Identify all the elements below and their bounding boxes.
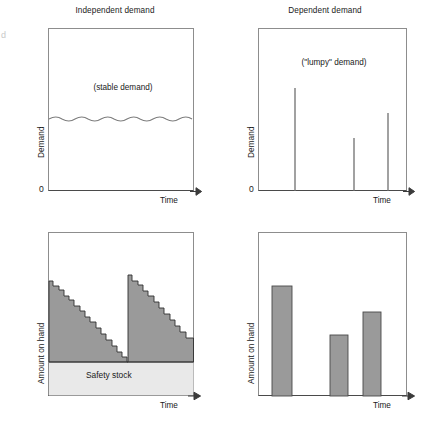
chart-svg-dependent-demand [232,6,425,206]
panel-dependent-amount-on-hand: Amount on hand Time [232,224,425,420]
x-axis-label-time: Time [160,196,178,205]
bar-1 [272,286,292,396]
margin-crop-mark: d [1,30,5,40]
panel-dependent-demand: Dependent demand Demand 0 ("lumpy" deman… [232,6,425,206]
x-axis-arrowhead [190,188,202,196]
x-axis-arrowhead [403,188,415,196]
x-axis-label-time: Time [373,196,391,205]
chart-svg-dependent-amount-on-hand [232,224,425,420]
x-axis-arrowhead [402,392,415,400]
inventory-on-hand-area [49,275,194,362]
stable-demand-line [49,117,192,121]
bar-2 [330,335,348,396]
x-axis-label-time: Time [373,401,391,410]
demand-spikes [295,88,388,191]
annotation-safety-stock: Safety stock [86,370,132,380]
panel-independent-demand: Independent demand Demand 0 (stable dema… [20,6,210,206]
chart-svg-independent-amount-on-hand [20,224,210,420]
bar-3 [363,312,381,396]
panel-independent-amount-on-hand: Amount on hand Safety stock Time [20,224,210,420]
inventory-bars [272,286,381,396]
chart-svg-independent-demand [20,6,210,206]
x-axis-label-time: Time [160,401,178,410]
figure-root: d Independent demand Demand 0 (stable de… [0,0,425,422]
